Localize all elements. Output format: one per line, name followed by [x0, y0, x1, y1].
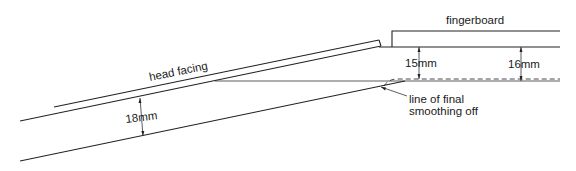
smoothing-label-line1: line of final [409, 93, 464, 105]
head-facing-shape [20, 40, 381, 121]
final-smoothing-dashed-line [384, 79, 560, 86]
dimension-18mm-label: 18mm [125, 109, 158, 125]
fingerboard-label: fingerboard [446, 14, 504, 26]
smoothing-leader [381, 87, 407, 96]
fingerboard-shape [379, 31, 560, 47]
dimension-15mm-label: 15mm [405, 57, 437, 69]
dimension-16mm-label: 16mm [508, 58, 540, 70]
neck-head-cross-section-diagram: fingerboard head facing 18mm 15mm 16mm l… [0, 0, 576, 171]
smoothing-label-line2: smoothing off [409, 105, 479, 117]
head-back-line [20, 81, 405, 161]
head-facing-label: head facing [148, 59, 209, 83]
